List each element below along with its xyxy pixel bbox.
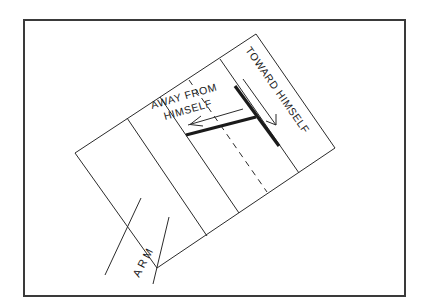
diagram-canvas: AWAY FROM HIMSELF TOWARD HIMSELF ARM: [0, 0, 428, 308]
